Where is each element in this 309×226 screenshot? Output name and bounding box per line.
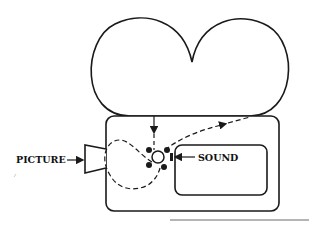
picture-label: PICTURE — [16, 154, 66, 165]
film-reels — [91, 18, 288, 116]
sound-label: SOUND — [198, 152, 238, 163]
lens — [85, 145, 106, 173]
camera-diagram: PICTURE SOUND — [0, 0, 309, 226]
stray-mark — [14, 174, 16, 177]
